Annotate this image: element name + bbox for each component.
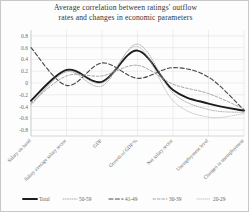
legend-label-total: Total xyxy=(39,196,50,202)
y-axis-tick-label: 0.6 xyxy=(21,45,28,51)
legend-label-50-59: 50-59 xyxy=(79,196,92,202)
y-axis-tick-label: -0.2 xyxy=(19,92,28,98)
gridlines-group xyxy=(31,30,244,136)
x-axis-category-label: Changes in unemployment xyxy=(202,137,245,180)
x-axis-category-label: Unemployment level xyxy=(175,137,210,172)
x-axis-category-label: GDP xyxy=(91,137,103,149)
chart-figure: Average correlation between ratings' out… xyxy=(0,0,249,212)
legend-label-30-39: 30-39 xyxy=(169,196,182,202)
y-axis-tick-label: -0.6 xyxy=(19,115,28,121)
legend-label-20-29: 20-29 xyxy=(213,196,226,202)
y-axis-tick-label: -0.4 xyxy=(19,104,28,110)
y-axis-tick-label: 0 xyxy=(25,80,28,86)
y-axis-tick-label: 0.2 xyxy=(21,68,28,74)
y-axis-tick-label: 0.8 xyxy=(21,33,28,39)
chart-legend: Total50-5941-4930-3920-29 xyxy=(23,196,226,202)
x-axis-category-label: Net salary sector xyxy=(145,137,174,166)
x-axis-category-label: Salary on hand xyxy=(6,137,32,163)
x-axis-category-label: Growth of GDP % xyxy=(107,137,139,169)
legend-label-41-49: 41-49 xyxy=(125,196,138,202)
chart-plot-area: 0.80.60.40.20-0.2-0.4-0.6-0.8 Salary on … xyxy=(1,1,249,212)
y-axis-tick-label: -0.8 xyxy=(19,127,28,133)
y-axis-tick-label: 0.4 xyxy=(21,56,28,62)
x-axis-category-labels: Salary on handSalary average salary sect… xyxy=(6,137,245,182)
y-axis-tick-labels: 0.80.60.40.20-0.2-0.4-0.6-0.8 xyxy=(19,33,28,133)
